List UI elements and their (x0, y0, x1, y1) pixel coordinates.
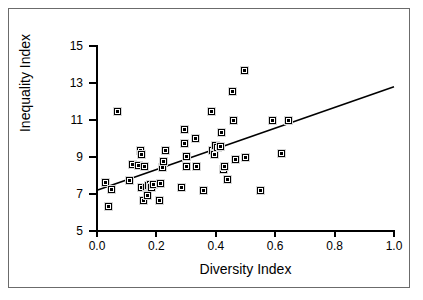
x-tick-mark (96, 230, 98, 237)
data-point (199, 186, 208, 195)
data-point (182, 152, 191, 161)
plot-area (97, 46, 394, 231)
x-tick-mark (393, 230, 395, 237)
y-tick-label: 11 (49, 114, 83, 126)
x-tick-mark (155, 230, 157, 237)
data-point (240, 66, 249, 75)
x-tick-label: 0.8 (315, 240, 355, 252)
data-point (256, 186, 265, 195)
data-point (277, 149, 286, 158)
data-point (231, 155, 240, 164)
data-point (241, 153, 250, 162)
figure-border: 579111315 0.00.20.40.60.81.0 Inequality … (8, 8, 410, 288)
data-point (229, 116, 238, 125)
data-point (192, 162, 201, 171)
data-point (284, 116, 293, 125)
y-axis-title: Inequality Index (17, 3, 33, 163)
y-tick-label: 13 (49, 77, 83, 89)
data-point (161, 146, 170, 155)
x-tick-label: 0.0 (77, 240, 117, 252)
y-tick-label: 15 (49, 40, 83, 52)
data-point (177, 183, 186, 192)
x-tick-mark (334, 230, 336, 237)
data-point (228, 87, 237, 96)
data-point (223, 175, 232, 184)
x-tick-label: 0.4 (196, 240, 236, 252)
data-point (156, 179, 165, 188)
data-point (207, 107, 216, 116)
data-point (113, 107, 122, 116)
y-tick-mark (89, 193, 97, 195)
data-point (180, 125, 189, 134)
x-tick-label: 0.6 (255, 240, 295, 252)
data-point (137, 150, 146, 159)
x-tick-mark (274, 230, 276, 237)
data-point (268, 116, 277, 125)
data-point (220, 162, 229, 171)
data-point (140, 162, 149, 171)
data-point (125, 176, 134, 185)
data-point (217, 128, 226, 137)
data-point (182, 162, 191, 171)
data-point (107, 185, 116, 194)
data-point (191, 134, 200, 143)
y-tick-mark (89, 156, 97, 158)
y-tick-label: 7 (49, 188, 83, 200)
x-axis-title: Diversity Index (96, 261, 395, 277)
y-tick-label: 9 (49, 151, 83, 163)
x-tick-label: 1.0 (374, 240, 414, 252)
y-tick-mark (89, 82, 97, 84)
x-tick-label: 0.2 (136, 240, 176, 252)
data-point (216, 142, 225, 151)
data-point (180, 139, 189, 148)
y-tick-label: 5 (49, 225, 83, 237)
data-point (104, 202, 113, 211)
y-tick-mark (89, 45, 97, 47)
figure-container: 579111315 0.00.20.40.60.81.0 Inequality … (0, 0, 423, 300)
y-tick-mark (89, 119, 97, 121)
data-point (143, 191, 152, 200)
data-point (155, 196, 164, 205)
x-tick-mark (215, 230, 217, 237)
data-point (159, 157, 168, 166)
